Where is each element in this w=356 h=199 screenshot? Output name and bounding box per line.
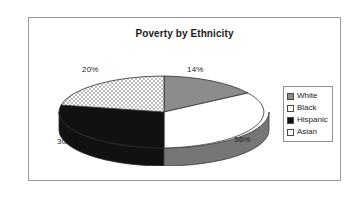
data-label-white: 14% [187,65,204,74]
legend-label-white: White [297,91,317,101]
legend-item-hispanic: Hispanic [287,114,329,126]
chart-frame: Poverty by Ethnicity [28,17,341,181]
legend-label-asian: Asian [297,127,317,137]
data-label-hispanic: 30% [57,137,74,146]
data-label-asian: 20% [82,65,99,74]
legend-item-black: Black [287,102,329,114]
legend-label-black: Black [297,103,317,113]
pie-graphic [51,66,277,166]
legend-swatch-black-icon [287,105,294,112]
legend-swatch-hispanic-icon [287,117,294,124]
chart-legend: White Black Hispanic Asian [283,86,333,142]
chart-title: Poverty by Ethnicity [29,28,340,39]
legend-label-hispanic: Hispanic [297,115,328,125]
legend-swatch-asian-icon [287,129,294,136]
legend-item-white: White [287,90,329,102]
data-label-black: 36% [234,135,251,144]
legend-item-asian: Asian [287,126,329,138]
pie-chart [51,66,277,166]
legend-swatch-white-icon [287,93,294,100]
